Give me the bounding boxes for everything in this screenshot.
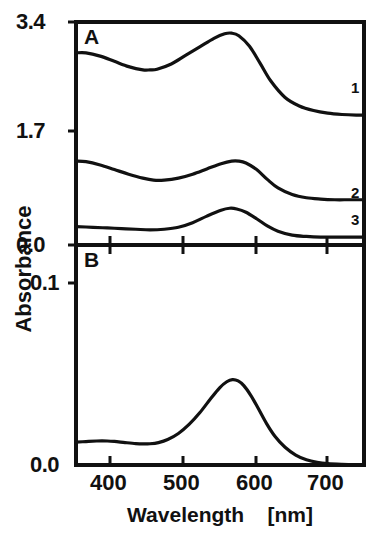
y-axis-title: Absorbance [11,199,37,339]
xtick-label-400: 400 [90,470,127,496]
spectra-figure: 3.4 1.7 0.0 0.1 0.0 A B 1 2 3 400 500 60… [0,0,377,533]
curve-a-1 [76,33,364,115]
xtick-label-700: 700 [307,470,344,496]
spectra-curves [76,33,364,465]
x-axis-title: Wavelength [nm] [76,503,364,527]
ytick-label-a-17: 1.7 [16,118,45,144]
curve-b-B [76,380,364,465]
panel-label-a: A [84,25,99,49]
axes-frames [76,22,364,465]
xtick-label-600: 600 [236,470,273,496]
panel-label-b: B [84,248,99,272]
curve-a-3 [76,208,364,237]
xtick-label-500: 500 [163,470,200,496]
curve-label-2: 2 [351,184,359,201]
curve-label-3: 3 [351,211,359,228]
ytick-label-a-34: 3.4 [16,9,45,35]
panel-b-frame [76,245,364,465]
curve-a-2 [76,161,364,200]
curve-label-1: 1 [351,79,359,96]
ytick-label-b-00: 0.0 [30,452,59,478]
